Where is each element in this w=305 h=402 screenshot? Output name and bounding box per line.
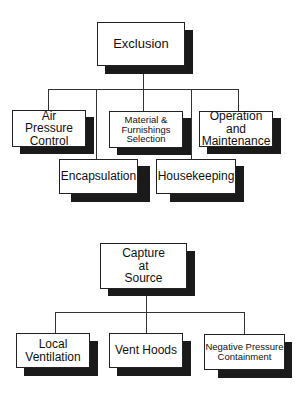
node-label: Vent Hoods <box>115 344 177 357</box>
connector-encapsulation <box>96 89 97 159</box>
node-label: Operation and Maintenance <box>200 110 272 148</box>
node-label: Encapsulation <box>61 170 136 183</box>
connector-negative-pressure <box>244 312 245 334</box>
node-label: Exclusion <box>113 37 169 51</box>
node-negative-pressure-containment: Negative Pressure Containment <box>204 334 285 370</box>
node-label: Local Ventilation <box>25 338 80 363</box>
node-local-ventilation: Local Ventilation <box>16 333 90 368</box>
node-encapsulation: Encapsulation <box>59 159 138 194</box>
connector-operation <box>238 89 239 111</box>
node-label: Negative Pressure Containment <box>205 342 283 362</box>
node-label: Material & Furnishings Selection <box>121 115 170 145</box>
connector-housekeeping <box>191 89 192 159</box>
node-exclusion: Exclusion <box>97 22 185 66</box>
node-vent-hoods: Vent Hoods <box>109 333 183 368</box>
connector-local-ventilation <box>55 312 56 333</box>
connector-material <box>143 89 144 111</box>
node-label: Capture at Source <box>122 247 165 285</box>
node-air-pressure-control: Air Pressure Control <box>12 110 86 147</box>
node-label: Air Pressure Control <box>25 110 73 148</box>
node-operation-maintenance: Operation and Maintenance <box>199 111 273 147</box>
connector-capture-bus <box>55 312 245 313</box>
node-capture-at-source: Capture at Source <box>100 243 187 289</box>
node-label: Housekeeping <box>158 170 235 183</box>
node-housekeeping: Housekeeping <box>156 159 236 194</box>
connector-air-pressure <box>48 89 49 110</box>
node-material-furnishings-selection: Material & Furnishings Selection <box>109 111 183 148</box>
